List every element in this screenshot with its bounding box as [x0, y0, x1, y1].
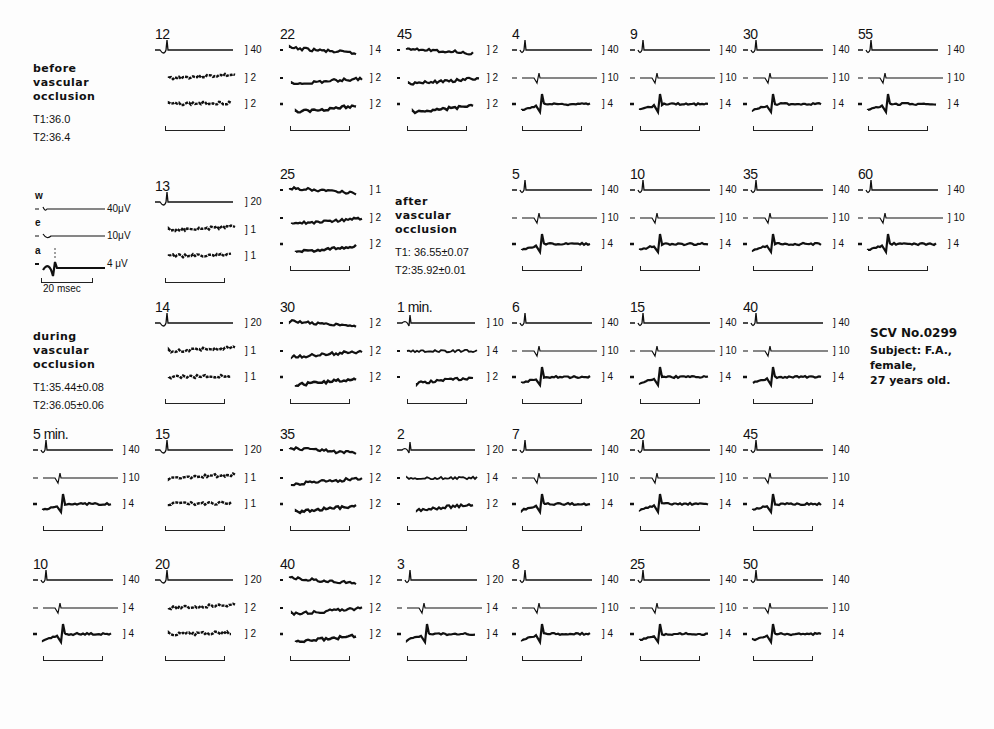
time-scale-bar: [290, 526, 350, 531]
time-scale-bar: [407, 399, 467, 404]
time-scale-bar: [165, 126, 225, 131]
recording-panel: 7] 40] 10] 4: [512, 426, 622, 541]
time-scale-bar: [290, 126, 350, 131]
amplitude-scale: ] 4: [948, 238, 959, 249]
trace-svg: [512, 180, 602, 260]
channel-w-scale: 40μV: [107, 203, 131, 214]
trace-svg: [33, 570, 123, 650]
amplitude-scale: ] 10: [487, 317, 504, 328]
amplitude-scale: ] 2: [370, 212, 381, 223]
amplitude-scale: ] 2: [487, 72, 498, 83]
condition-after-label: after vascular occlusion: [395, 195, 457, 237]
amplitude-scale: ] 2: [245, 98, 256, 109]
amplitude-scale: ] 2: [370, 98, 381, 109]
subject-sex: female,: [870, 359, 957, 372]
amplitude-scale: ] 10: [602, 602, 619, 613]
recording-panel: 12] 40] 2] 2: [155, 26, 265, 141]
amplitude-scale: ] 2: [370, 498, 381, 509]
time-scale-bar: [522, 266, 582, 271]
amplitude-scale: ] 40: [833, 317, 850, 328]
amplitude-scale: ] 10: [948, 212, 965, 223]
time-scale-bar: [290, 399, 350, 404]
time-scale-bar: [868, 126, 928, 131]
recording-panel: 1 min.] 10] 4] 2: [397, 299, 507, 414]
trace-svg: [630, 180, 720, 260]
amplitude-scale: ] 2: [245, 628, 256, 639]
amplitude-scale: ] 4: [602, 98, 613, 109]
amplitude-scale: ] 10: [720, 212, 737, 223]
amplitude-scale: ] 10: [833, 602, 850, 613]
recording-panel: 14] 20] 1] 1: [155, 299, 265, 414]
amplitude-scale: ] 2: [370, 371, 381, 382]
label-line: vascular: [395, 209, 457, 223]
time-scale-bar: [868, 266, 928, 271]
recording-panel: 35] 40] 10] 4: [743, 166, 853, 281]
amplitude-scale: ] 4: [833, 498, 844, 509]
time-scale-bar: [290, 266, 350, 271]
recording-panel: 55] 40] 10] 4: [858, 26, 968, 141]
condition-during-label: during vascular occlusion: [33, 330, 95, 372]
time-scale-bar: [640, 266, 700, 271]
amplitude-scale: ] 10: [720, 602, 737, 613]
amplitude-scale: ] 2: [487, 44, 498, 55]
recording-panel: 60] 40] 10] 4: [858, 166, 968, 281]
recording-panel: 15] 40] 10] 4: [630, 299, 740, 414]
amplitude-scale: ] 4: [487, 345, 498, 356]
trace-svg: [858, 40, 948, 120]
amplitude-scale: ] 2: [370, 345, 381, 356]
trace-svg: [743, 180, 833, 260]
recording-panel: 20] 20] 2] 2: [155, 556, 265, 671]
amplitude-scale: ] 10: [833, 212, 850, 223]
amplitude-scale: ] 4: [123, 628, 134, 639]
amplitude-scale: ] 20: [487, 574, 504, 585]
time-scale-bar: [522, 399, 582, 404]
time-scale-bar: [165, 399, 225, 404]
recording-panel: 3] 20] 4] 4: [397, 556, 507, 671]
amplitude-scale: ] 40: [720, 44, 737, 55]
amplitude-scale: ] 40: [833, 44, 850, 55]
amplitude-scale: ] 40: [720, 444, 737, 455]
amplitude-scale: ] 2: [370, 238, 381, 249]
trace-svg: [743, 440, 833, 520]
recording-panel: 2] 20] 4] 2: [397, 426, 507, 541]
time-scale-bar: [165, 526, 225, 531]
time-scale-bar: [753, 526, 813, 531]
amplitude-scale: ] 4: [948, 98, 959, 109]
trace-svg: [512, 440, 602, 520]
time-scale-bar: [522, 656, 582, 661]
amplitude-scale: ] 4: [720, 371, 731, 382]
recording-panel: 5] 40] 10] 4: [512, 166, 622, 281]
recording-panel: 30] 40] 10] 4: [743, 26, 853, 141]
amplitude-scale: ] 4: [123, 602, 134, 613]
amplitude-scale: ] 40: [833, 574, 850, 585]
after-temps: T1: 36.55±0.07 T2:35.92±0.01: [395, 243, 469, 279]
amplitude-scale: ] 40: [123, 444, 140, 455]
recording-panel: 9] 40] 10] 4: [630, 26, 740, 141]
amplitude-scale: ] 4: [720, 238, 731, 249]
time-scale-bar: [640, 399, 700, 404]
label-line: vascular: [33, 344, 95, 358]
recording-panel: 10] 40] 10] 4: [630, 166, 740, 281]
label-line: occlusion: [33, 90, 95, 104]
time-scale-bar: [165, 656, 225, 661]
amplitude-scale: ] 10: [833, 72, 850, 83]
amplitude-scale: ] 40: [602, 44, 619, 55]
time-scale-bar: [43, 526, 103, 531]
amplitude-scale: ] 10: [123, 472, 140, 483]
after-t1: T1: 36.55±0.07: [395, 243, 469, 261]
legend-traces: [33, 198, 118, 288]
time-scale-bar: [407, 526, 467, 531]
time-scale-bar: [165, 278, 225, 283]
label-line: occlusion: [33, 358, 95, 372]
recording-panel: 15] 20] 1] 1: [155, 426, 265, 541]
condition-before-label: before vascular occlusion: [33, 62, 95, 104]
amplitude-scale: ] 2: [487, 371, 498, 382]
amplitude-scale: ] 40: [720, 317, 737, 328]
amplitude-scale: ] 40: [720, 184, 737, 195]
amplitude-scale: ] 20: [245, 444, 262, 455]
amplitude-scale: ] 40: [833, 184, 850, 195]
time-scale-bar: [640, 526, 700, 531]
trace-svg: [512, 313, 602, 393]
amplitude-scale: ] 10: [602, 472, 619, 483]
time-scale-bar: [407, 126, 467, 131]
